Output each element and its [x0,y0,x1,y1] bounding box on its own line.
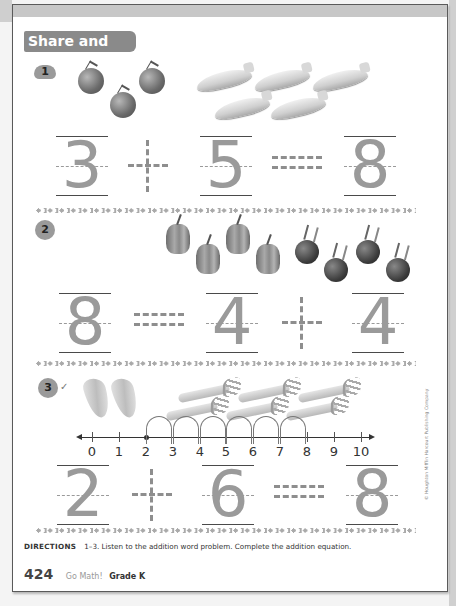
directions: DIRECTIONS1–3. Listen to the addition wo… [24,542,351,551]
tick-label: 7 [270,444,290,459]
addend-1: 3 [56,130,108,200]
problem-3-badge: 3 [38,378,58,398]
tick-label: 1 [109,444,129,459]
tree-icon: 3 [44,381,52,394]
answer-box[interactable]: 2 [57,465,109,525]
hop-arc [226,416,252,444]
directions-text: 1–3. Listen to the addition word problem… [84,542,351,551]
addend-2: 6 [202,459,254,529]
grade-label: Grade K [109,572,145,581]
arrow-right-icon [369,434,375,440]
section-divider [36,208,416,213]
tick-label: 3 [163,444,183,459]
equals-sign-trace[interactable] [134,293,184,353]
problem-1-equation: 3 5 8 [0,136,456,206]
addend-1: 2 [57,459,109,529]
tomato-icon [78,68,104,94]
answer-box[interactable]: 5 [200,136,252,196]
section-title: Share and Show [24,31,136,52]
beet-icon [356,240,380,264]
plus-sign-trace[interactable] [132,465,172,525]
equals-sign-trace[interactable] [274,465,324,525]
addend-1: 4 [206,287,258,357]
tick-label: 8 [297,444,317,459]
hop-arc [200,416,226,444]
addend-2: 4 [352,287,404,357]
check-icon: ✓ [60,381,68,392]
tick-label: 9 [324,444,344,459]
hop-arc [173,416,199,444]
answer-box[interactable]: 3 [56,136,108,196]
problem-1-badge: 1 [34,65,56,79]
bell-pepper-icon [256,244,280,274]
answer-box[interactable]: 8 [344,136,396,196]
answer-box[interactable]: 4 [352,293,404,353]
section-divider [36,528,416,533]
answer-box[interactable]: 4 [206,293,258,353]
hop-arc [146,416,172,444]
beet-icon [324,258,348,282]
beet-icon [295,240,319,264]
copyright-notice: © Houghton Mifflin Harcourt Publishing C… [424,389,429,500]
tomato-icon [110,92,136,118]
answer-box[interactable]: 6 [202,465,254,525]
plus-sign-trace[interactable] [128,136,168,196]
tomato-icon [139,68,165,94]
beet-icon [386,258,410,282]
hop-arc [280,416,306,444]
sum: 8 [344,130,396,200]
answer-box[interactable]: 8 [346,465,398,525]
page-number: 424 [24,566,53,582]
section-divider [36,361,416,366]
bell-pepper-icon [166,224,190,254]
tick-label: 4 [190,444,210,459]
car-icon: 1 [41,65,49,78]
sum: 8 [346,459,398,529]
plus-sign-trace[interactable] [282,293,322,353]
brand-name: Go Math! [66,572,103,581]
sum: 8 [59,287,111,357]
directions-label: DIRECTIONS [24,542,76,551]
addend-2: 5 [200,130,252,200]
equals-sign-trace[interactable] [272,136,322,196]
problem-2-equation: 8 4 4 [0,293,456,363]
problem-3-equation: 2 6 8 [0,465,456,535]
page-header-band [13,5,447,17]
hop-arc [253,416,279,444]
tick-label: 2 [136,444,156,459]
answer-box[interactable]: 8 [59,293,111,353]
bell-pepper-icon [196,244,220,274]
problem-2-badge: 2 [35,220,55,240]
background-strip [0,0,12,22]
bell-pepper-icon [226,224,250,254]
page-footer: 424 Go Math! Grade K [24,566,145,582]
